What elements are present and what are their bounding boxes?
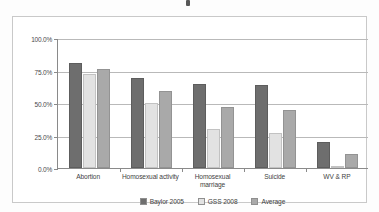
- bar: [331, 166, 344, 168]
- bar-group: [58, 39, 120, 168]
- legend-item[interactable]: GSS 2008: [198, 198, 238, 205]
- bar: [317, 142, 330, 168]
- legend-label: GSS 2008: [208, 198, 238, 205]
- bar: [159, 91, 172, 168]
- x-axis-category-label: Suicide: [244, 173, 306, 190]
- legend-item[interactable]: Baylor 2005: [140, 198, 184, 205]
- plot-area: 0.0%25.0%50.0%75.0%100.0%: [57, 39, 368, 169]
- legend-swatch-icon: [251, 198, 258, 205]
- y-axis-tick-label: 25.0%: [35, 133, 52, 140]
- y-axis-tick: [54, 169, 58, 170]
- bar: [283, 110, 296, 169]
- bar: [145, 103, 158, 168]
- bar: [69, 63, 82, 168]
- x-axis-tick: [182, 168, 183, 172]
- bar-groups: [58, 39, 368, 168]
- x-axis-tick: [244, 168, 245, 172]
- x-axis-tick: [120, 168, 121, 172]
- legend-swatch-icon: [198, 198, 205, 205]
- bar: [131, 78, 144, 168]
- bar-group: [182, 39, 244, 168]
- y-axis-tick-label: 75.0%: [35, 68, 52, 75]
- x-axis-labels: AbortionHomosexual activityHomosexual ma…: [57, 173, 368, 190]
- bar: [193, 84, 206, 169]
- chart-page: 0.0%25.0%50.0%75.0%100.0% AbortionHomose…: [0, 0, 379, 212]
- bar: [269, 133, 282, 168]
- legend-label: Average: [261, 198, 285, 205]
- y-axis-tick-label: 0.0%: [38, 166, 52, 173]
- bar: [345, 154, 358, 168]
- chart-legend: Baylor 2005GSS 2008Average: [57, 198, 368, 205]
- bar: [255, 85, 268, 168]
- legend-swatch-icon: [140, 198, 147, 205]
- bar-group: [244, 39, 306, 168]
- bar-group: [120, 39, 182, 168]
- y-axis-tick-label: 100.0%: [31, 36, 52, 43]
- bar: [207, 129, 220, 168]
- x-axis-tick: [306, 168, 307, 172]
- x-axis-category-label: Homosexual activity: [119, 173, 181, 190]
- bar: [221, 107, 234, 168]
- bar: [97, 69, 110, 168]
- bar: [83, 74, 96, 168]
- bar-group: [306, 39, 368, 168]
- y-axis-tick-label: 50.0%: [35, 101, 52, 108]
- x-axis-category-label: WV & RP: [306, 173, 368, 190]
- clipped-title-descender: [186, 0, 190, 6]
- legend-label: Baylor 2005: [150, 198, 184, 205]
- chart-frame: 0.0%25.0%50.0%75.0%100.0% AbortionHomose…: [12, 16, 367, 203]
- legend-item[interactable]: Average: [251, 198, 285, 205]
- x-axis-category-label: Abortion: [57, 173, 119, 190]
- x-axis-category-label: Homosexual marriage: [181, 173, 243, 190]
